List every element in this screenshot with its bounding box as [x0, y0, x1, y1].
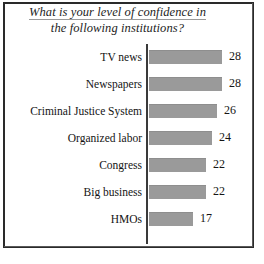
bar-row: Big business22 — [0, 185, 251, 212]
bar-rect — [149, 131, 212, 145]
bar-rect — [149, 50, 222, 64]
bar-row: HMOs17 — [0, 212, 251, 239]
bar-rect — [149, 185, 206, 199]
chart-title-line-2: the following institutions? — [10, 21, 225, 35]
chart-title: What is your level of confidence in the … — [10, 5, 225, 35]
bar-rect — [149, 104, 217, 118]
bar-rect — [149, 212, 193, 226]
bar-value-label: 22 — [213, 184, 225, 199]
bar-value-label: 17 — [200, 211, 212, 226]
bar-row: Congress22 — [0, 158, 251, 185]
bar-category-label: Big business — [6, 185, 142, 199]
bar-row: TV news28 — [0, 50, 251, 77]
bar-row: Newspapers28 — [0, 77, 251, 104]
bar-value-label: 28 — [229, 49, 241, 64]
bar-category-label: Newspapers — [6, 77, 142, 91]
confidence-bar-chart-figure: What is your level of confidence in the … — [0, 0, 264, 264]
bar-value-label: 22 — [213, 157, 225, 172]
bar-row: Criminal Justice System26 — [0, 104, 251, 131]
bar-value-label: 28 — [229, 76, 241, 91]
bar-rect — [149, 77, 222, 91]
bar-category-label: TV news — [6, 50, 142, 64]
chart-title-line-1: What is your level of confidence in — [29, 5, 206, 20]
bar-rect — [149, 158, 206, 172]
bar-value-label: 24 — [219, 130, 231, 145]
bar-category-label: HMOs — [6, 212, 142, 226]
plot-area: TV news28Newspapers28Criminal Justice Sy… — [0, 42, 251, 246]
bar-category-label: Congress — [6, 158, 142, 172]
bar-category-label: Criminal Justice System — [6, 104, 142, 118]
bar-category-label: Organized labor — [6, 131, 142, 145]
bar-value-label: 26 — [224, 103, 236, 118]
bar-row: Organized labor24 — [0, 131, 251, 158]
